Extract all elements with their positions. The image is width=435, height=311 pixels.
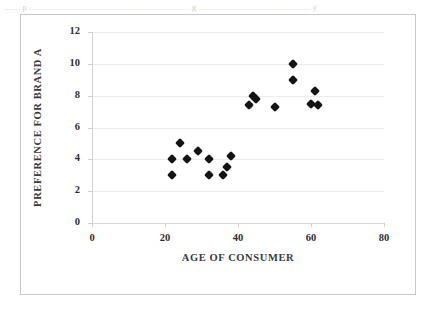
y-axis-title: PREFERENCE FOR BRAND A	[32, 33, 43, 223]
data-point	[244, 100, 254, 110]
data-point	[288, 75, 298, 85]
y-tick-label: 8	[58, 89, 80, 100]
gridline-y	[92, 159, 384, 160]
data-point	[182, 154, 192, 164]
x-tick-label: 0	[80, 232, 104, 243]
y-axis-line	[92, 32, 93, 223]
x-tick-label: 80	[372, 232, 396, 243]
data-point	[204, 170, 214, 180]
y-tick-label: 4	[58, 152, 80, 163]
x-tick-label: 20	[153, 232, 177, 243]
x-tick-label: 40	[226, 232, 250, 243]
x-tick-mark	[384, 223, 385, 227]
gridline-y	[92, 191, 384, 192]
y-tick-label: 2	[58, 184, 80, 195]
data-point	[167, 170, 177, 180]
y-tick-label: 12	[58, 25, 80, 36]
data-point	[204, 154, 214, 164]
data-point	[193, 146, 203, 156]
gridline-y	[92, 64, 384, 65]
x-tick-label: 60	[299, 232, 323, 243]
gridline-y	[92, 32, 384, 33]
y-tick-label: 0	[58, 216, 80, 227]
data-point	[310, 86, 320, 96]
y-tick-label: 6	[58, 121, 80, 132]
gridline-y	[92, 128, 384, 129]
data-point	[270, 102, 280, 112]
gridline-y	[92, 96, 384, 97]
data-point	[175, 138, 185, 148]
x-axis-title: AGE OF CONSUMER	[92, 252, 384, 263]
data-point	[288, 59, 298, 69]
data-point	[313, 100, 323, 110]
y-tick-label: 10	[58, 57, 80, 68]
x-axis-line	[92, 223, 384, 224]
data-point	[167, 154, 177, 164]
scatter-plot: 024681012 020406080 PREFERENCE FOR BRAND…	[0, 0, 435, 311]
